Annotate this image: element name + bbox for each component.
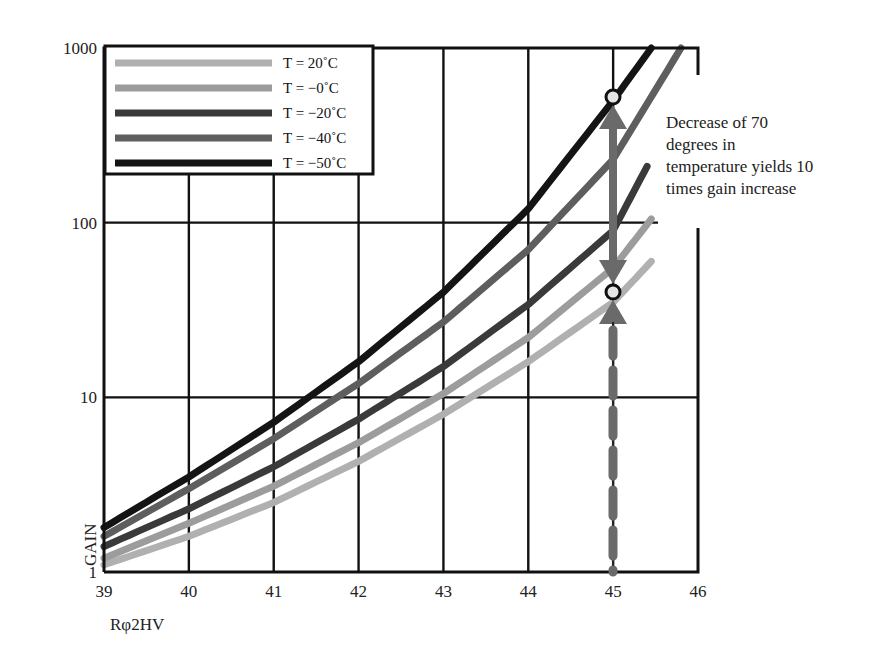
x-tick-label: 42 — [350, 582, 367, 601]
x-tick-label: 46 — [690, 582, 707, 601]
x-tick-label: 40 — [180, 582, 197, 601]
annotation-line: temperature yields 10 — [666, 156, 886, 178]
y-axis-ticks: 1101001000 — [63, 39, 97, 582]
x-tick-label: 41 — [265, 582, 282, 601]
annotation-text: Decrease of 70 degrees in temperature yi… — [666, 112, 886, 200]
y-tick-label: 100 — [72, 214, 98, 233]
legend-label: T = −20˚C — [283, 105, 346, 121]
x-tick-label: 45 — [605, 582, 622, 601]
circle-marker-icon — [606, 90, 620, 104]
gain-chart: T = 20˚CT = −0˚CT = −20˚CT = −40˚CT = −5… — [0, 0, 887, 658]
legend-label: T = 20˚C — [283, 55, 338, 71]
y-tick-label: 10 — [80, 388, 97, 407]
y-axis-label: GAIN — [81, 524, 100, 567]
x-axis-label: Rφ2HV — [110, 615, 165, 634]
legend-label: T = −0˚C — [283, 80, 339, 96]
x-tick-label: 43 — [435, 582, 452, 601]
circle-marker-icon — [606, 285, 620, 299]
x-tick-label: 44 — [520, 582, 538, 601]
annotation-line: Decrease of 70 — [666, 112, 886, 134]
x-axis-ticks: 3940414243444546 — [96, 582, 707, 601]
x-tick-label: 39 — [96, 582, 113, 601]
legend: T = 20˚CT = −0˚CT = −20˚CT = −40˚CT = −5… — [105, 46, 373, 174]
gain-arrow — [599, 90, 627, 572]
y-tick-label: 1000 — [63, 39, 97, 58]
legend-label: T = −50˚C — [283, 155, 346, 171]
annotation-line: degrees in — [666, 134, 886, 156]
annotation-line: times gain increase — [666, 178, 886, 200]
legend-label: T = −40˚C — [283, 130, 346, 146]
